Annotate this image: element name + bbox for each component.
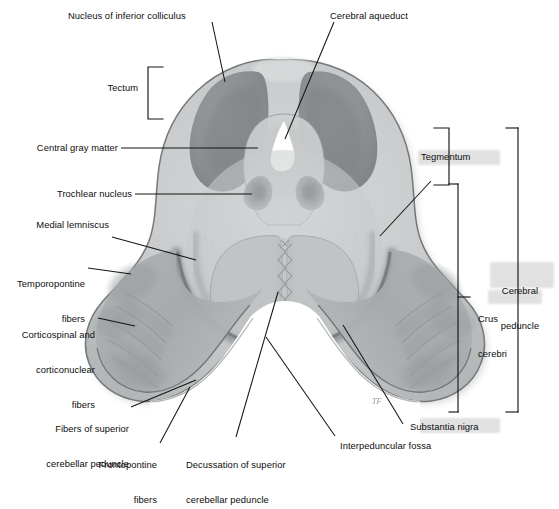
label-frontopontine-line2: fibers: [60, 494, 157, 506]
label-medial-lemniscus: Medial lemniscus: [6, 219, 109, 231]
label-interpeduncular-fossa: Interpeduncular fossa: [340, 440, 431, 452]
label-tectum: Tectum: [60, 82, 138, 94]
label-fibers-scp-line1: Fibers of superior: [4, 423, 129, 435]
leader-nucleus-inferior-colliculus: [212, 22, 225, 82]
bracket-tectum: [148, 67, 163, 119]
label-central-gray-matter: Central gray matter: [10, 142, 118, 154]
label-cerebral-peduncle-line1: Cerebral: [486, 285, 554, 297]
midbrain-body: TF: [85, 58, 484, 475]
label-decussation-line1: Decussation of superior: [186, 459, 316, 471]
artist-signature: TF: [372, 397, 381, 406]
label-tegmentum: Tegmentum: [421, 151, 470, 163]
label-cerebral-peduncle: Cerebral peduncle: [486, 262, 554, 355]
label-cerebral-aqueduct: Cerebral aqueduct: [330, 10, 408, 22]
label-corticospinal-line1: Corticospinal and: [2, 329, 95, 341]
label-decussation-line2: cerebellar peduncle: [186, 494, 316, 506]
label-cerebral-peduncle-line2: peduncle: [486, 320, 554, 332]
label-corticospinal-line2: corticonuclear: [2, 364, 95, 376]
label-substantia-nigra: Substantia nigra: [410, 421, 479, 433]
label-temporopontine-fibers-line1: Temporopontine: [2, 278, 85, 290]
label-frontopontine-line1: Frontopontine: [60, 459, 157, 471]
label-trochlear-nucleus: Trochlear nucleus: [20, 188, 132, 200]
label-decussation-of-superior-cerebellar-peduncle: Decussation of superior cerebellar pedun…: [186, 436, 316, 509]
label-frontopontine-fibers: Frontopontine fibers: [60, 436, 157, 509]
label-nucleus-of-inferior-colliculus: Nucleus of inferior colliculus: [68, 10, 186, 22]
